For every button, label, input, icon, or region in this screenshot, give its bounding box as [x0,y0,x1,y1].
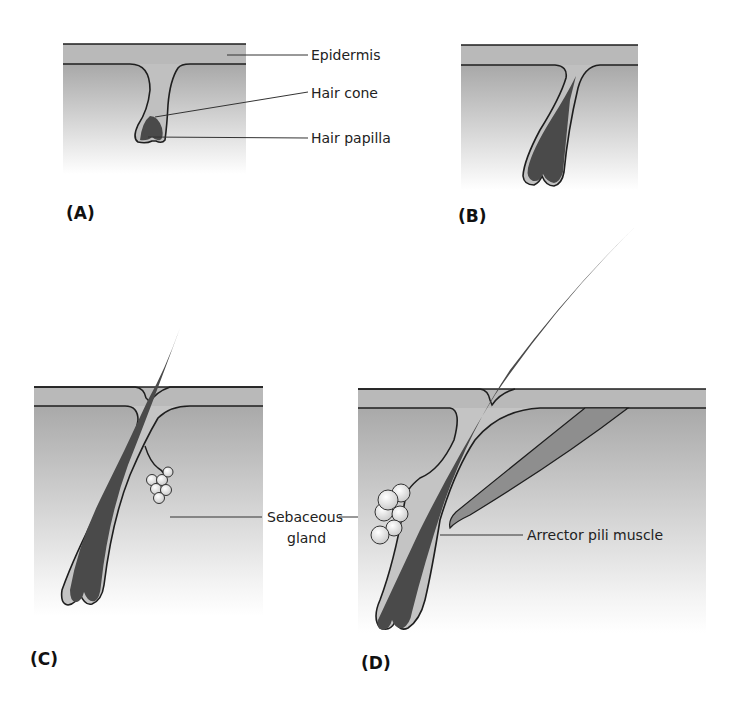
panel-label-b: (B) [458,206,487,226]
panel-label-d: (D) [361,653,391,673]
panel-a: Epidermis Hair cone Hair papilla (A) [63,44,391,223]
panel-c: (C) [30,328,263,669]
panel-d: Arrector pili muscle (D) [358,225,706,673]
label-sebaceous: Sebaceous [267,509,343,525]
epidermis-layer [63,44,246,64]
panel-label-c: (C) [30,649,58,669]
label-hair-papilla: Hair papilla [311,130,391,146]
label-gland: gland [287,530,326,546]
panel-b: (B) [458,45,638,226]
label-arrector-pili: Arrector pili muscle [527,527,663,543]
panel-label-a: (A) [66,203,95,223]
hair-follicle-diagram: Epidermis Hair cone Hair papilla (A) (B) [0,0,738,705]
label-hair-cone: Hair cone [311,85,378,101]
label-epidermis: Epidermis [311,47,380,63]
